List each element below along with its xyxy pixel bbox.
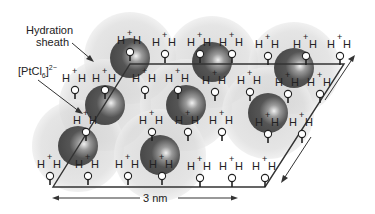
hydrogen-atom: H: [132, 72, 140, 84]
hydrogen-atom: H: [152, 36, 160, 48]
positive-charge: +: [317, 70, 322, 80]
oxygen-atom: [84, 172, 91, 179]
oxygen-atom: [336, 52, 343, 59]
positive-charge: +: [162, 30, 167, 40]
hydrogen-atom: H: [62, 72, 70, 84]
positive-charge: +: [85, 152, 90, 162]
oxygen-atom: [261, 174, 268, 181]
hydrogen-atom: H: [91, 158, 99, 170]
hydrogen-atom: H: [37, 158, 45, 170]
positive-charge: +: [149, 108, 154, 118]
hydrogen-atom: H: [168, 36, 176, 48]
hydrogen-atom: H: [92, 72, 100, 84]
oxygen-atom: [82, 128, 89, 135]
oxygen-atom: [218, 128, 225, 135]
hydrogen-atom: H: [149, 158, 157, 170]
oxygen-atom: [141, 86, 148, 93]
hydronium-ion: HH+: [219, 154, 243, 187]
hydrogen-atom: H: [108, 72, 116, 84]
positive-charge: +: [303, 32, 308, 42]
hydrogen-atom: H: [219, 36, 227, 48]
hydrogen-atom: H: [293, 38, 301, 50]
hydrogen-atom: H: [89, 114, 97, 126]
hydrogen-atom: H: [307, 76, 315, 88]
positive-charge: +: [265, 32, 270, 42]
oxygen-atom: [228, 174, 235, 181]
oxygen-atom: [196, 174, 203, 181]
positive-charge: +: [197, 30, 202, 40]
oxygen-atom: [101, 86, 108, 93]
positive-charge: +: [299, 110, 304, 120]
hydrogen-atom: H: [305, 116, 313, 128]
positive-charge: +: [72, 66, 77, 76]
positive-charge: +: [285, 70, 290, 80]
oxygen-atom: [184, 128, 191, 135]
hydrogen-atom: H: [181, 72, 189, 84]
hydrogen-atom: H: [202, 74, 210, 86]
hydration-lattice-diagram: HH+HH+HH+HH+HH+HH+HH+HH+HH+HH+HH+HH+HH+H…: [0, 0, 375, 214]
positive-charge: +: [229, 30, 234, 40]
hydrogen-atom: H: [148, 72, 156, 84]
hydronium-ion: HH+: [252, 154, 276, 187]
oxygen-atom: [298, 130, 305, 137]
oxygen-atom: [211, 88, 218, 95]
hydrogen-atom: H: [268, 160, 276, 172]
positive-charge: +: [219, 108, 224, 118]
hydration-label-line2: sheath: [36, 36, 69, 48]
oxygen-atom: [124, 172, 131, 179]
hydrogen-atom: H: [218, 74, 226, 86]
positive-charge: +: [102, 66, 107, 76]
hydrogen-atom: H: [203, 160, 211, 172]
hydrogen-atom: H: [53, 158, 61, 170]
hydrogen-atom: H: [78, 72, 86, 84]
hydration-label-line1: Hydration: [26, 24, 73, 36]
positive-charge: +: [229, 154, 234, 164]
hydrogen-atom: H: [133, 34, 141, 46]
oxygen-atom: [126, 48, 133, 55]
oxygen-atom: [161, 50, 168, 57]
oxygen-atom: [246, 88, 253, 95]
anion-formula: [PtCl6]2−: [18, 64, 57, 79]
hydrogen-atom: H: [187, 36, 195, 48]
hydrogen-atom: H: [73, 114, 81, 126]
oxygen-atom: [158, 172, 165, 179]
oxygen-atom: [228, 50, 235, 57]
ptcl6-anion-sphere: [166, 85, 206, 125]
oxygen-atom: [264, 52, 271, 59]
hydrogen-atom: H: [131, 158, 139, 170]
hydrogen-atom: H: [343, 38, 351, 50]
hydrogen-atom: H: [275, 76, 283, 88]
oxygen-atom: [148, 128, 155, 135]
hydrogen-atom: H: [225, 114, 233, 126]
oxygen-atom: [196, 50, 203, 57]
positive-charge: +: [247, 68, 252, 78]
scale-arrow: 3 nm: [52, 192, 238, 204]
oxygen-atom: [46, 172, 53, 179]
hydrogen-atom: H: [323, 76, 331, 88]
hydrogen-atom: H: [255, 116, 263, 128]
oxygen-atom: [316, 90, 323, 97]
hydrogen-atom: H: [115, 158, 123, 170]
hydrogen-atom: H: [291, 76, 299, 88]
scale-label: 3 nm: [143, 192, 167, 204]
hydrogen-atom: H: [235, 36, 243, 48]
hydrogen-atom: H: [252, 160, 260, 172]
hydrogen-atom: H: [235, 160, 243, 172]
hydrogen-atom: H: [75, 158, 83, 170]
positive-charge: +: [83, 108, 88, 118]
positive-charge: +: [142, 66, 147, 76]
hydrogen-atom: H: [165, 158, 173, 170]
hydrogen-atom: H: [271, 38, 279, 50]
hydrogen-atom: H: [165, 72, 173, 84]
hydrogen-atom: H: [139, 114, 147, 126]
hydrogen-atom: H: [253, 74, 261, 86]
positive-charge: +: [175, 66, 180, 76]
hydrogen-atom: H: [155, 114, 163, 126]
positive-charge: +: [125, 152, 130, 162]
hydrogen-atom: H: [289, 116, 297, 128]
hydrogen-atom: H: [187, 160, 195, 172]
hydrogen-atom: H: [309, 38, 317, 50]
hydrogen-atom: H: [255, 38, 263, 50]
oxygen-atom: [284, 90, 291, 97]
hydrogen-atom: H: [175, 114, 183, 126]
